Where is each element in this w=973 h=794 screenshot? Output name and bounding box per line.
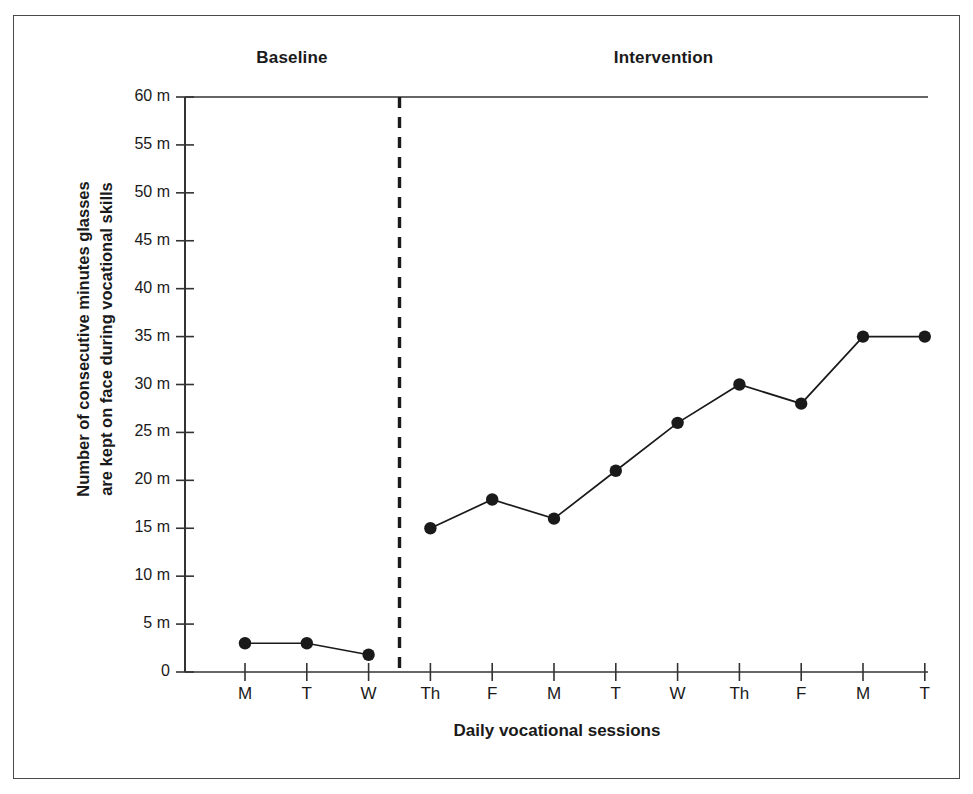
x-tick-label: T [589, 684, 643, 704]
data-series-line-intervention [430, 337, 924, 529]
y-axis-title-line-1: Number of consecutive minutes glasses [72, 59, 95, 619]
data-point-marker [486, 493, 498, 505]
x-tick-label: T [898, 684, 952, 704]
y-tick-label: 0 [108, 662, 170, 680]
data-point-marker [857, 330, 869, 342]
x-tick-label: Th [403, 684, 457, 704]
data-point-marker [610, 465, 622, 477]
x-tick-label: W [651, 684, 705, 704]
x-tick-label: F [465, 684, 519, 704]
y-axis-title-line-2: are kept on face during vocational skill… [95, 59, 118, 619]
x-tick-label: M [527, 684, 581, 704]
data-point-marker [671, 417, 683, 429]
x-tick-label: Th [712, 684, 766, 704]
x-tick-label: M [836, 684, 890, 704]
data-point-marker [362, 649, 374, 661]
x-tick-label: W [342, 684, 396, 704]
axes-group [185, 97, 928, 672]
data-point-marker [795, 397, 807, 409]
phase-label-intervention: Intervention [614, 48, 714, 68]
x-axis-title: Daily vocational sessions [185, 721, 929, 741]
data-point-marker [239, 637, 251, 649]
data-point-marker [548, 512, 560, 524]
data-point-marker [733, 378, 745, 390]
phase-label-baseline: Baseline [256, 48, 328, 68]
x-tick-label: F [774, 684, 828, 704]
data-point-marker [424, 522, 436, 534]
data-point-marker [301, 637, 313, 649]
x-tick-label: T [280, 684, 334, 704]
data-point-marker [919, 330, 931, 342]
x-tick-label: M [218, 684, 272, 704]
y-axis-title: Number of consecutive minutes glasses ar… [72, 59, 118, 619]
